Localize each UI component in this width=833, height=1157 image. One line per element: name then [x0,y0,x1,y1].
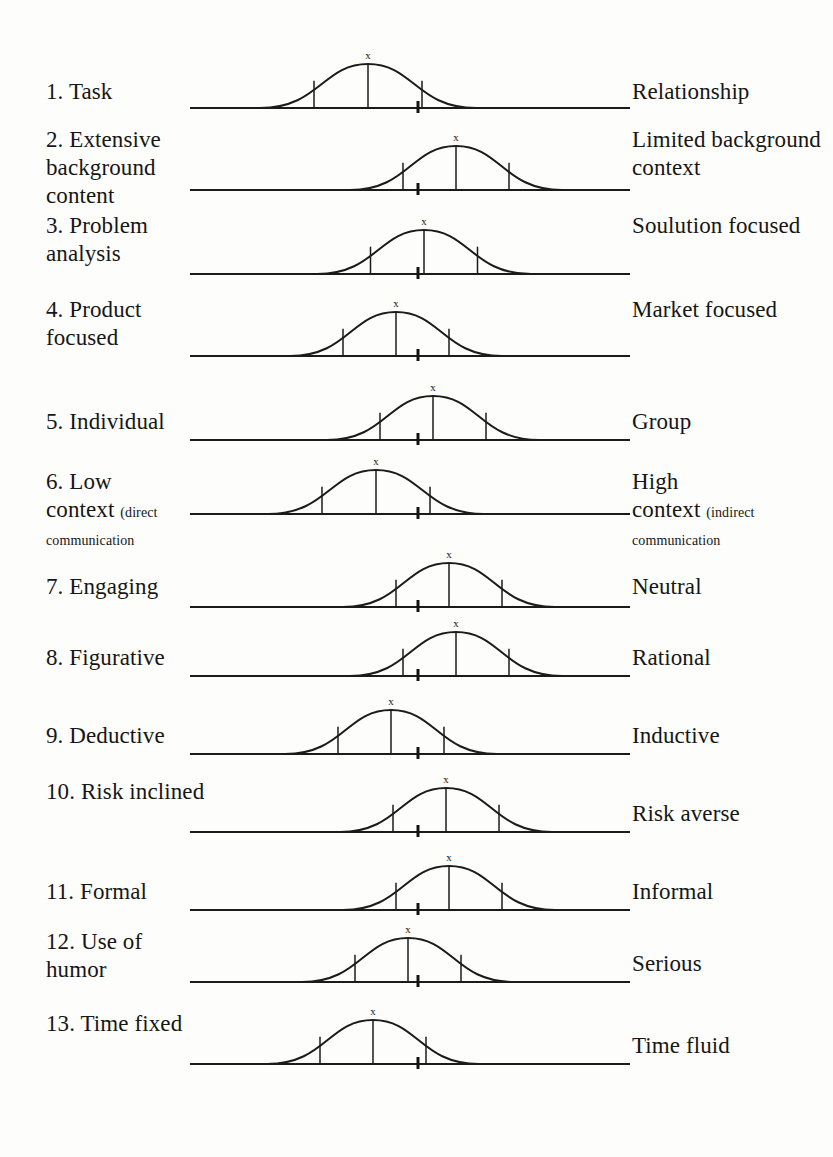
scale-left-label-4: 4. Product focused [46,296,206,352]
scale-left-pole-8: Figurative [69,645,165,670]
scale-graphic-13[interactable]: x [190,1002,630,1082]
scale-right-pole-cont-6: context [632,497,700,522]
scale-right-pole-7: Neutral [632,574,702,599]
scale-left-pole-2: Extensive background content [46,127,161,208]
scale-right-label-13: Time fluid [632,1032,832,1060]
scale-number-5: 5. [46,409,63,434]
apex-x-marker-3: x [421,215,427,227]
scale-left-label-13: 13. Time fixed [46,1010,206,1038]
scale-right-label-12: Serious [632,950,832,978]
apex-x-marker-13: x [370,1005,376,1017]
apex-x-marker-6: x [373,455,379,467]
apex-x-marker-11: x [446,851,452,863]
scale-right-label-3: Soulution focused [632,212,832,240]
scale-left-label-6: 6. Lowcontext (directcommunication [46,468,206,552]
scale-right-pole-5: Group [632,409,691,434]
scale-right-note-6: (indirect [706,505,754,520]
scale-right-pole-3: Soulution focused [632,213,800,238]
scale-left-pole-7: Engaging [69,574,158,599]
scale-graphic-7[interactable]: x [190,545,630,625]
scale-left-pole-6: Low [69,469,111,494]
scale-left-label-3: 3. Problem analysis [46,212,206,268]
apex-x-marker-5: x [430,381,436,393]
scale-number-3: 3. [46,213,63,238]
scale-left-label-1: 1. Task [46,78,206,106]
scale-right-label-5: Group [632,408,832,436]
scale-graphic-11[interactable]: x [190,848,630,928]
scale-graphic-2[interactable]: x [190,128,630,208]
scale-left-pole-1: Task [69,79,113,104]
scale-left-label-8: 8. Figurative [46,644,206,672]
scale-left-label-2: 2. Extensive background content [46,126,206,210]
scale-right-label-11: Informal [632,878,832,906]
scale-graphic-4[interactable]: x [190,294,630,374]
scale-left-pole-11: Formal [80,879,147,904]
scale-graphic-1[interactable]: x [190,46,630,126]
scale-number-1: 1. [46,79,63,104]
scale-graphic-8[interactable]: x [190,614,630,694]
scale-right-pole-10: Risk averse [632,801,740,826]
scale-number-13: 13. [46,1011,75,1036]
apex-x-marker-9: x [388,695,394,707]
scale-right-pole-11: Informal [632,879,713,904]
scale-left-label-5: 5. Individual [46,408,206,436]
scale-number-10: 10. [46,779,75,804]
scale-number-7: 7. [46,574,63,599]
scale-graphic-9[interactable]: x [190,692,630,772]
scale-right-pole-8: Rational [632,645,711,670]
scale-right-pole-6: High [632,469,678,494]
apex-x-marker-4: x [393,297,399,309]
scale-number-12: 12. [46,929,75,954]
scale-right-label-9: Inductive [632,722,832,750]
scale-left-pole-10: Risk inclined [81,779,204,804]
scale-right-pole-1: Relationship [632,79,749,104]
scale-graphic-3[interactable]: x [190,212,630,292]
scale-graphic-6[interactable]: x [190,452,630,532]
scale-right-note2-6: communication [632,533,720,548]
scale-right-label-7: Neutral [632,573,832,601]
scale-left-label-9: 9. Deductive [46,722,206,750]
scale-number-11: 11. [46,879,74,904]
apex-x-marker-2: x [453,131,459,143]
scale-right-pole-12: Serious [632,951,702,976]
scale-left-pole-cont-6: context [46,497,114,522]
scale-right-pole-4: Market focused [632,297,777,322]
scale-left-pole-9: Deductive [69,723,164,748]
scale-left-pole-13: Time fixed [81,1011,183,1036]
scale-left-note-6: (direct [120,505,157,520]
scale-number-9: 9. [46,723,63,748]
scale-right-label-10: Risk averse [632,800,832,828]
scale-number-4: 4. [46,297,63,322]
scale-left-note2-6: communication [46,533,134,548]
scale-right-pole-2: Limited background context [632,127,821,180]
apex-x-marker-8: x [453,617,459,629]
scale-left-label-7: 7. Engaging [46,573,206,601]
scale-right-label-6: Highcontext (indirectcommunication [632,468,832,552]
scale-left-label-11: 11. Formal [46,878,206,906]
scale-graphic-5[interactable]: x [190,378,630,458]
scale-number-6: 6. [46,469,63,494]
apex-x-marker-10: x [443,773,449,785]
scale-right-label-2: Limited background context [632,126,832,182]
scale-right-label-8: Rational [632,644,832,672]
scale-number-8: 8. [46,645,63,670]
scale-number-2: 2. [46,127,63,152]
scale-right-pole-13: Time fluid [632,1033,730,1058]
scale-left-pole-5: Individual [69,409,165,434]
scale-left-label-12: 12. Use of humor [46,928,206,984]
scale-graphic-10[interactable]: x [190,770,630,850]
apex-x-marker-7: x [446,548,452,560]
worksheet-page: 1. TaskRelationshipx2. Extensive backgro… [0,0,833,1157]
scale-left-label-10: 10. Risk inclined [46,778,206,806]
scale-right-label-4: Market focused [632,296,832,324]
scale-graphic-12[interactable]: x [190,920,630,1000]
scale-right-pole-9: Inductive [632,723,720,748]
scale-right-label-1: Relationship [632,78,832,106]
apex-x-marker-12: x [405,923,411,935]
apex-x-marker-1: x [365,49,371,61]
